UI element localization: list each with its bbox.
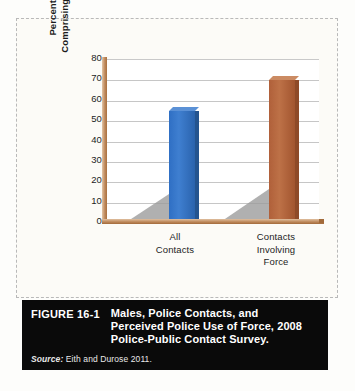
figure-caption-bar: FIGURE 16-1 Males, Police Contacts, and … [22,300,328,370]
y-tick-70: 70 [91,73,102,83]
x-label-contacts-involving-force: Contacts Involving Force [240,231,312,269]
y-tick-20: 20 [91,175,102,185]
y-tick-40: 40 [91,135,102,145]
y-tick-60: 60 [91,94,102,104]
bar-all-contacts[interactable] [169,111,195,223]
y-axis-line [102,57,107,224]
source-label: Source: [31,354,63,364]
figure-number: FIGURE 16-1 [31,307,100,320]
y-tick-30: 30 [91,155,102,165]
y-tick-80: 80 [91,53,102,63]
y-tick-10: 10 [91,196,102,206]
bar-shadow-contacts-involving-force [219,189,269,223]
x-label-all-contacts: All Contacts [139,231,211,256]
y-axis-title: Percent of Males Comprising Each Group [47,0,69,80]
bar-chart: Percent of Males Comprising Each Group 8… [0,0,355,298]
bar-side-all-contacts [195,111,199,223]
y-tick-50: 50 [91,114,102,124]
y-axis-tick-labels: 80 70 60 50 40 30 20 10 0 [76,53,102,229]
caption-row: FIGURE 16-1 Males, Police Contacts, and … [31,307,320,347]
bar-face-contacts-involving-force [269,80,295,223]
source-text: Eith and Durose 2011. [66,354,152,364]
x-axis-end-cap [319,219,324,223]
x-axis-line [102,219,324,224]
x-axis-category-labels: All Contacts Contacts Involving Force [107,231,319,279]
figure-container: Percent of Males Comprising Each Group 8… [0,0,355,391]
bar-face-all-contacts [169,111,195,223]
figure-source: Source: Eith and Durose 2011. [31,354,152,364]
bar-contacts-involving-force[interactable] [269,80,295,223]
plot-area [107,59,319,223]
bar-side-contacts-involving-force [295,80,299,223]
figure-title: Males, Police Contacts, and Perceived Po… [111,307,302,347]
